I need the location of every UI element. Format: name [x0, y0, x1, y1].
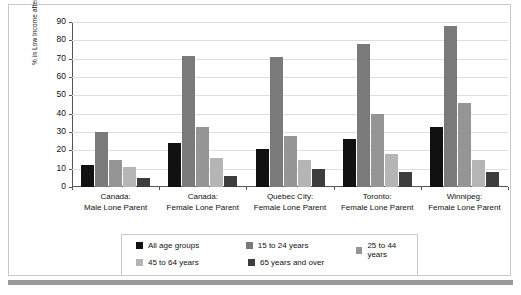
legend-item[interactable]: 15 to 24 years	[246, 241, 356, 250]
y-tick-label: 80	[36, 35, 66, 44]
legend-item[interactable]: All age groups	[136, 241, 246, 250]
bar	[399, 172, 412, 187]
bar-groups	[72, 22, 508, 187]
bar	[312, 169, 325, 187]
x-axis-label-line2: Female Lone Parent	[334, 202, 421, 213]
bottom-rule	[8, 280, 513, 285]
bar-group	[72, 22, 159, 187]
bar-group	[159, 22, 246, 187]
y-tick-label: 40	[36, 109, 66, 118]
y-tick-label: 70	[36, 54, 66, 63]
bar	[210, 158, 223, 187]
x-axis-label-line2: Female Lone Parent	[246, 202, 333, 213]
legend-label: 45 to 64 years	[148, 258, 199, 267]
x-tick-mark	[508, 187, 509, 190]
legend-swatch-icon	[136, 259, 143, 266]
bar	[371, 114, 384, 187]
bar	[123, 167, 136, 187]
bar	[182, 56, 195, 187]
legend-label: All age groups	[148, 241, 199, 250]
x-axis-label-line2: Male Lone Parent	[72, 202, 159, 213]
bar	[357, 44, 370, 187]
legend-item[interactable]: 65 years and over	[248, 258, 360, 267]
legend-row: 45 to 64 years65 years and over	[136, 258, 417, 275]
bar	[137, 178, 150, 187]
x-axis-label-line2: Female Lone Parent	[159, 202, 246, 213]
bar	[95, 132, 108, 187]
x-axis-label: Toronto:Female Lone Parent	[334, 191, 421, 213]
y-tick-label: 20	[36, 145, 66, 154]
bar-group	[246, 22, 333, 187]
legend-swatch-icon	[248, 259, 255, 266]
x-tick-mark	[246, 187, 247, 190]
x-axis-label-line1: Quebec City:	[267, 192, 313, 201]
y-tick-label: 90	[36, 17, 66, 26]
bar	[284, 136, 297, 187]
y-tick-label: 10	[36, 164, 66, 173]
y-tick-label: 50	[36, 90, 66, 99]
legend-swatch-icon	[246, 242, 253, 249]
bar	[168, 143, 181, 187]
y-tick-label: 30	[36, 127, 66, 136]
bar	[444, 26, 457, 187]
x-tick-mark	[72, 187, 73, 190]
legend-label: 65 years and over	[260, 258, 324, 267]
bar	[256, 149, 269, 188]
bar	[486, 172, 499, 187]
bar	[109, 160, 122, 188]
bar	[458, 103, 471, 187]
chart-legend: All age groups15 to 24 years25 to 44 yea…	[121, 234, 418, 276]
x-axis-label-line1: Toronto:	[363, 192, 392, 201]
bar	[224, 176, 237, 187]
legend-item[interactable]: 25 to 44 years	[356, 241, 417, 259]
x-tick-mark	[159, 187, 160, 190]
x-axis-label-line1: Winnipeg:	[447, 192, 483, 201]
x-tick-mark	[334, 187, 335, 190]
x-axis-label: Canada:Male Lone Parent	[72, 191, 159, 213]
bar	[270, 57, 283, 187]
x-axis-label-line1: Canada:	[188, 192, 218, 201]
chart-figure: % in Low Income after Tax 90807060504030…	[0, 0, 521, 295]
bar	[81, 165, 94, 187]
legend-label: 25 to 44 years	[367, 241, 417, 259]
bar	[430, 127, 443, 188]
bar	[472, 160, 485, 188]
x-axis-label: Quebec City:Female Lone Parent	[246, 191, 333, 213]
x-axis-label: Winnipeg:Female Lone Parent	[421, 191, 508, 213]
chart-panel: % in Low Income after Tax 90807060504030…	[8, 4, 511, 276]
x-axis-label-line1: Canada:	[100, 192, 130, 201]
legend-swatch-icon	[136, 242, 143, 249]
legend-item[interactable]: 45 to 64 years	[136, 258, 248, 267]
bar	[385, 154, 398, 187]
bar	[343, 139, 356, 187]
legend-row: All age groups15 to 24 years25 to 44 yea…	[136, 241, 417, 258]
bar-group	[334, 22, 421, 187]
x-tick-mark	[421, 187, 422, 190]
bar	[298, 160, 311, 188]
x-axis-labels: Canada:Male Lone ParentCanada:Female Lon…	[72, 191, 508, 213]
x-axis-label: Canada:Female Lone Parent	[159, 191, 246, 213]
bar	[196, 127, 209, 188]
y-tick-label: 60	[36, 72, 66, 81]
legend-swatch-icon	[356, 247, 363, 254]
x-axis-label-line2: Female Lone Parent	[421, 202, 508, 213]
y-tick-label: 0	[36, 182, 66, 191]
plot-area: 9080706050403020100	[72, 22, 508, 187]
legend-label: 15 to 24 years	[258, 241, 309, 250]
bar-group	[421, 22, 508, 187]
